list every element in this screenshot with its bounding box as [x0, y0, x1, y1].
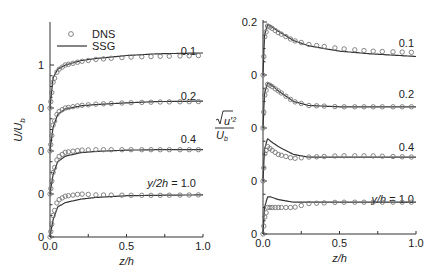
dns-marker — [288, 205, 292, 209]
y-tick-label: 0 — [38, 188, 44, 200]
x-tick-label: 1.0 — [408, 237, 423, 249]
dns-marker — [279, 205, 283, 209]
ssg-curve — [263, 197, 416, 234]
y-tick-label: 0 — [251, 69, 257, 81]
dns-marker — [196, 53, 200, 57]
dns-marker — [94, 193, 98, 197]
dns-marker — [322, 201, 326, 205]
ssg-curve — [50, 195, 203, 237]
dns-marker — [80, 192, 84, 196]
dns-marker — [71, 149, 75, 153]
x-axis-label: z/h — [331, 252, 347, 264]
dns-marker — [86, 148, 90, 152]
legend-ssg-label: SSG — [92, 40, 115, 52]
dns-marker — [400, 50, 404, 54]
profile-label: y/h = 1.0 — [370, 193, 414, 205]
svg-text:Ub: Ub — [216, 129, 228, 142]
x-tick-label: 0.0 — [255, 237, 270, 249]
dns-marker — [293, 205, 297, 209]
x-tick-label: 0.5 — [119, 240, 134, 252]
legend-dns-label: DNS — [92, 28, 115, 40]
profile-label: 0.4 — [399, 141, 414, 153]
dns-marker — [66, 194, 70, 198]
dns-marker — [284, 205, 288, 209]
dns-marker — [293, 156, 297, 160]
profile-label: 0.2 — [181, 90, 196, 102]
ssg-curve — [263, 83, 416, 128]
x-tick-label: 1.0 — [195, 240, 210, 252]
dns-marker — [284, 154, 288, 158]
dns-marker — [158, 54, 162, 58]
dns-marker — [353, 48, 357, 52]
dns-marker — [75, 148, 79, 152]
profile-label: y/2h = 1.0 — [146, 177, 196, 189]
y-tick-label: 1 — [38, 59, 44, 71]
dns-marker — [380, 49, 384, 53]
dns-marker — [94, 57, 98, 61]
x-axis-label: z/h — [118, 255, 134, 267]
dns-marker — [362, 48, 366, 52]
profile-label: 0.4 — [181, 133, 196, 145]
y-tick-label: 0 — [251, 175, 257, 187]
dns-marker — [86, 192, 90, 196]
dns-marker — [288, 156, 292, 160]
y-tick-label: 0 — [38, 102, 44, 114]
dns-marker — [80, 148, 84, 152]
y-tick-label: 0 — [38, 231, 44, 243]
dns-marker — [391, 50, 395, 54]
dns-marker — [71, 193, 75, 197]
dns-marker — [75, 192, 79, 196]
dns-marker — [149, 54, 153, 58]
y-axis-label: u'² — [224, 115, 236, 127]
profile-label: 0.1 — [181, 45, 196, 57]
dns-marker — [333, 46, 337, 50]
profile-label: 0.2 — [399, 88, 414, 100]
y-tick-label: 0 — [38, 145, 44, 157]
dns-marker — [167, 54, 171, 58]
legend-dns-marker — [69, 32, 74, 37]
x-tick-label: 0.5 — [332, 237, 347, 249]
dns-marker — [371, 49, 375, 53]
dns-marker — [342, 47, 346, 51]
dns-marker — [409, 50, 413, 54]
chart-canvas: 0.00.51.0z/h00001U/Uby/2h = 1.00.40.20.1… — [0, 0, 436, 280]
dns-marker — [66, 150, 70, 154]
dns-marker — [299, 203, 303, 207]
dns-marker — [380, 154, 384, 158]
x-tick-label: 0.0 — [42, 240, 57, 252]
profile-label: 0.1 — [399, 37, 414, 49]
y-tick-label: 0 — [251, 122, 257, 134]
y-axis-label: U/Ub — [12, 118, 27, 142]
y-tick-label: 0.2 — [242, 16, 257, 28]
y-tick-label: 0 — [251, 228, 257, 240]
dns-marker — [86, 58, 90, 62]
dns-marker — [120, 193, 124, 197]
ssg-curve — [263, 139, 416, 181]
